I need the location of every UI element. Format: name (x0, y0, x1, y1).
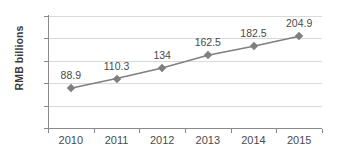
line-chart: RMB billions 050100150200250 20102011201… (0, 0, 340, 156)
data-point-label: 204.9 (276, 17, 322, 29)
data-point-label: 134 (139, 49, 185, 61)
data-point-label: 162.5 (185, 36, 231, 48)
data-point-label: 182.5 (231, 27, 277, 39)
data-point-label: 88.9 (48, 69, 94, 81)
data-point-label: 110.3 (94, 60, 140, 72)
